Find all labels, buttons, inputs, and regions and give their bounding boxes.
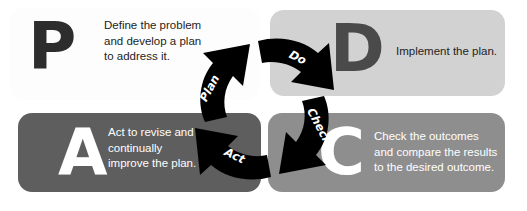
- letter-p: P: [28, 14, 75, 80]
- pdca-diagram: P D A C Define the problem and develop a…: [0, 0, 527, 211]
- quadrant-text-plan: Define the problem and develop a plan to…: [104, 18, 244, 65]
- quadrant-text-do: Implement the plan.: [396, 44, 521, 60]
- quadrant-text-act: Act to revise and continually improve th…: [108, 125, 243, 172]
- letter-a: A: [58, 121, 107, 185]
- letter-c: C: [318, 120, 364, 184]
- letter-d: D: [330, 16, 384, 82]
- quadrant-text-check: Check the outcomes and compare the resul…: [374, 129, 519, 176]
